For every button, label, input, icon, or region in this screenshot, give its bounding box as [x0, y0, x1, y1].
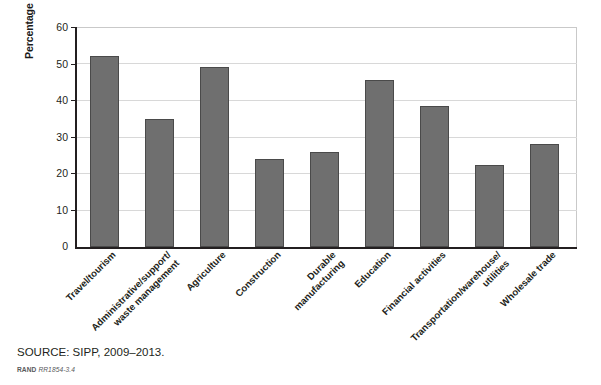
y-tick-label: 10 — [40, 204, 68, 216]
bar-construction — [255, 159, 284, 247]
rand-report-number: RR1854-3.4 — [38, 366, 75, 373]
y-tick-label: 40 — [40, 94, 68, 106]
bar-slot — [297, 27, 352, 247]
bar-transportation-warehouse-utilities — [475, 165, 504, 248]
bar-administrative-support-waste-management — [145, 119, 174, 247]
bar-slot — [352, 27, 407, 247]
bar-education — [365, 80, 394, 247]
bar-wholesale-trade — [530, 144, 559, 247]
bar-agriculture — [200, 67, 229, 247]
rand-label: RAND — [17, 366, 36, 373]
y-tick-label: 60 — [40, 21, 68, 33]
bar-slot — [407, 27, 462, 247]
bar-travel-tourism — [90, 56, 119, 247]
bar-slot — [187, 27, 242, 247]
plot-area — [75, 27, 577, 249]
bar-slot — [517, 27, 572, 247]
y-tick-label: 30 — [40, 131, 68, 143]
bar-slot — [462, 27, 517, 247]
x-axis-category-labels: Travel/tourism Administrative/support/ w… — [0, 249, 601, 344]
bar-financial-activities — [420, 106, 449, 247]
rand-report-id: RAND RR1854-3.4 — [17, 366, 75, 373]
y-tick-label: 50 — [40, 58, 68, 70]
bar-durable-manufacturing — [310, 152, 339, 247]
source-note: SOURCE: SIPP, 2009–2013. — [17, 346, 164, 358]
bar-slot — [242, 27, 297, 247]
bar-slot — [132, 27, 187, 247]
y-tick-label: 20 — [40, 167, 68, 179]
bar-slot — [77, 27, 132, 247]
figure-bar-chart: Percentage of entrants in California und… — [0, 0, 601, 385]
